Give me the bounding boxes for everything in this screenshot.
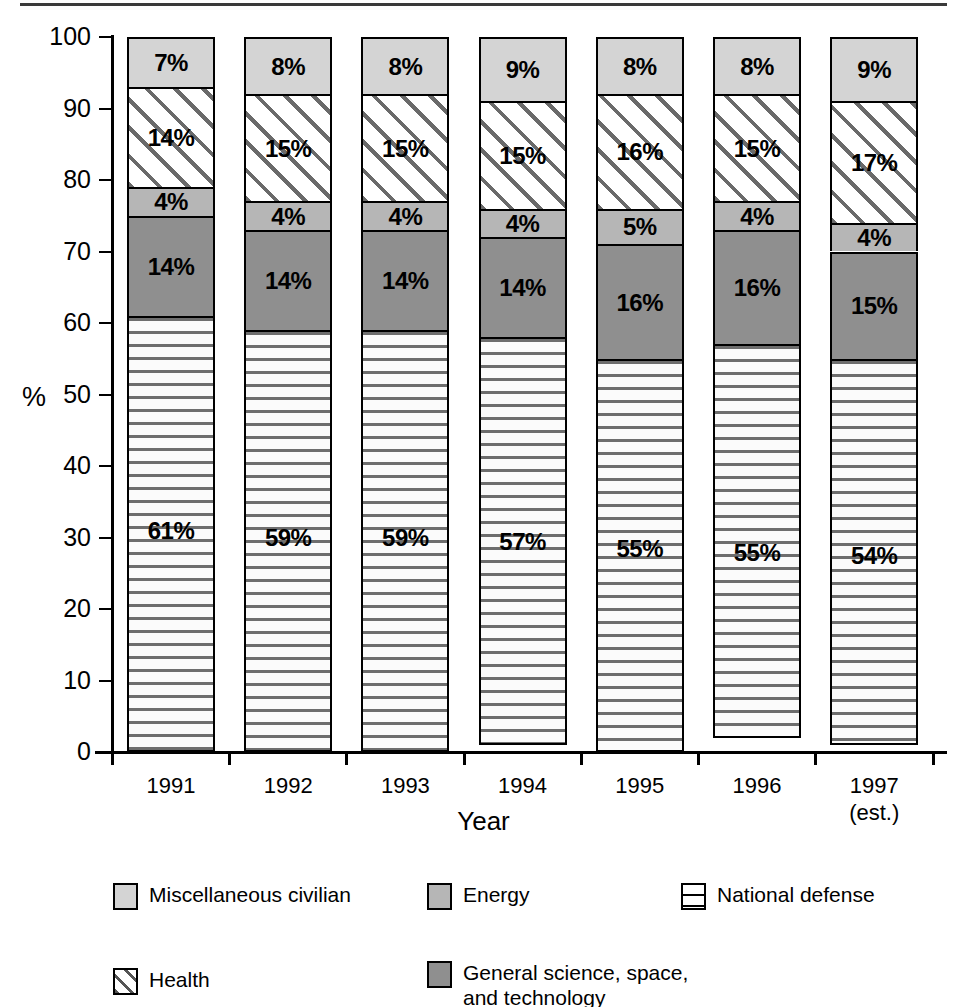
y-tick-label: 80 [33, 167, 91, 192]
stacked-bar: 9%15%4%14%57% [479, 37, 567, 752]
y-tick-mark [99, 608, 111, 610]
segment-value-label: 8% [271, 53, 305, 81]
segment-value-label: 14% [148, 124, 195, 152]
stacked-bar: 7%14%4%14%61% [127, 37, 215, 752]
bar-segment: 4% [830, 223, 918, 252]
bar-segment: 4% [713, 201, 801, 230]
legend-label: General science, space, and technology [463, 960, 688, 1007]
segment-value-label: 54% [832, 542, 916, 570]
segment-value-label: 57% [481, 528, 565, 556]
y-tick-label: 20 [33, 596, 91, 621]
bar-segment: 57% [479, 337, 567, 745]
y-tick-label: 30 [33, 525, 91, 550]
stacked-bar: 8%16%5%16%55% [596, 37, 684, 752]
x-tick-mark [932, 751, 935, 765]
y-tick-label: 100 [33, 24, 91, 49]
y-tick-label: 60 [33, 310, 91, 335]
legend-swatch [113, 968, 138, 995]
legend-item: National defense [681, 882, 875, 910]
y-tick-label: 40 [33, 453, 91, 478]
x-category-year: 1991 [147, 773, 196, 798]
bar-segment: 15% [361, 94, 449, 201]
legend-item: Miscellaneous civilian [113, 882, 351, 910]
x-category-year: 1993 [381, 773, 430, 798]
segment-value-label: 4% [506, 210, 540, 237]
stacked-bar-chart: 0102030405060708090100 % 7%14%4%14%61%8%… [0, 0, 967, 800]
bar-segment: 14% [127, 87, 215, 187]
bar-segment: 4% [479, 209, 567, 238]
bar-segment: 8% [244, 37, 332, 94]
x-category-label: 1995 [580, 772, 700, 799]
bar-segment: 16% [713, 230, 801, 344]
legend-label: Energy [463, 882, 530, 907]
y-tick-mark [99, 537, 111, 539]
x-category-year: 1994 [498, 773, 547, 798]
bar-segment: 55% [713, 344, 801, 737]
legend-label: Miscellaneous civilian [149, 882, 351, 907]
segment-value-label: 8% [389, 53, 423, 81]
legend-swatch [427, 883, 452, 910]
legend-item: General science, space, and technology [427, 960, 688, 1007]
bar-segment: 7% [127, 37, 215, 87]
segment-value-label: 9% [857, 56, 891, 84]
chart-page: 0102030405060708090100 % 7%14%4%14%61%8%… [0, 0, 967, 1007]
x-category-label: 1993 [345, 772, 465, 799]
segment-value-label: 55% [715, 539, 799, 567]
legend-item: Health [113, 967, 210, 995]
y-tick-label: 10 [33, 668, 91, 693]
legend-item: Energy [427, 882, 530, 910]
bar-segment: 54% [830, 359, 918, 745]
y-tick-mark [99, 751, 111, 753]
y-tick-label: 90 [33, 96, 91, 121]
bar-segment: 9% [830, 37, 918, 101]
legend-label: National defense [717, 882, 875, 907]
segment-value-label: 5% [623, 213, 657, 241]
segment-value-label: 14% [265, 267, 312, 295]
segment-value-label: 61% [129, 517, 213, 545]
segment-value-label: 4% [389, 203, 423, 230]
bar-segment: 8% [361, 37, 449, 94]
segment-value-label: 8% [623, 53, 657, 81]
bar-segment: 61% [127, 316, 215, 752]
segment-value-label: 14% [499, 274, 546, 302]
legend-swatch [681, 883, 706, 910]
y-tick-mark [99, 251, 111, 253]
bar-segment: 5% [596, 209, 684, 245]
legend-swatch [113, 883, 138, 910]
stacked-bar: 8%15%4%14%59% [361, 37, 449, 752]
bar-segment: 15% [244, 94, 332, 201]
x-category-label: 1991 [111, 772, 231, 799]
bar-segment: 16% [596, 94, 684, 208]
bar-segment: 14% [244, 230, 332, 330]
segment-value-label: 4% [857, 224, 891, 251]
bar-segment: 15% [479, 101, 567, 208]
y-tick-mark [99, 465, 111, 467]
bar-segment: 14% [479, 237, 567, 337]
x-tick-mark [111, 751, 114, 765]
segment-value-label: 15% [734, 135, 781, 163]
segment-value-label: 17% [851, 149, 898, 177]
segment-value-label: 16% [734, 274, 781, 302]
segment-value-label: 15% [265, 135, 312, 163]
legend-label: Health [149, 967, 210, 992]
x-category-year: 1992 [264, 773, 313, 798]
x-tick-mark [814, 751, 817, 765]
bar-segment: 55% [596, 359, 684, 752]
x-category-label: 1994 [463, 772, 583, 799]
bar-segment: 59% [361, 330, 449, 752]
x-tick-mark [345, 751, 348, 765]
bar-segment: 16% [596, 244, 684, 358]
bar-segment: 4% [361, 201, 449, 230]
x-tick-mark [228, 751, 231, 765]
bar-segment: 14% [127, 216, 215, 316]
legend-swatch [427, 961, 452, 988]
bar-segment: 8% [596, 37, 684, 94]
stacked-bar: 9%17%4%15%54% [830, 37, 918, 752]
segment-value-label: 9% [506, 56, 540, 84]
segment-value-label: 14% [148, 253, 195, 281]
x-axis-title: Year [0, 806, 967, 837]
legend: Key Miscellaneous civilianEnergyNational… [0, 860, 967, 1007]
x-tick-mark [463, 751, 466, 765]
segment-value-label: 15% [851, 292, 898, 320]
segment-value-label: 16% [617, 289, 664, 317]
